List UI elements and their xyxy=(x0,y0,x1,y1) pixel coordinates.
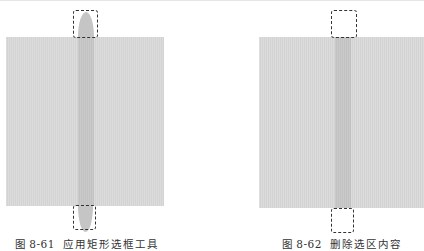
figure-caption: 图 8-62删除选区内容 xyxy=(282,236,402,251)
figure-caption: 图 8-61应用矩形选框工具 xyxy=(15,236,159,251)
figure-title: 删除选区内容 xyxy=(330,238,402,250)
figure-title: 应用矩形选框工具 xyxy=(63,238,159,250)
figure-8-61: 图 8-61应用矩形选框工具 xyxy=(0,0,212,251)
empty-selection-top xyxy=(331,10,357,38)
marquee-selection-top xyxy=(73,10,98,38)
figure-number: 图 8-61 xyxy=(15,238,55,250)
vertical-stripe xyxy=(78,37,94,206)
figure-number: 图 8-62 xyxy=(282,238,322,250)
marquee-selection-bottom xyxy=(73,205,96,230)
empty-selection-bottom xyxy=(331,208,354,233)
figure-8-62: 图 8-62删除选区内容 xyxy=(212,0,424,251)
vertical-stripe xyxy=(335,37,351,208)
